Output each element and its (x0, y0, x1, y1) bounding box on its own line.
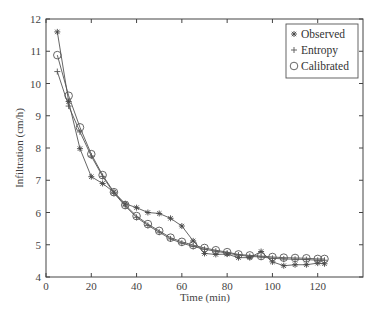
plus-marker-icon (66, 103, 72, 109)
x-tick-label: 120 (309, 280, 326, 292)
star-marker-icon (145, 210, 151, 216)
series-line (57, 55, 324, 259)
series-line (57, 32, 324, 266)
star-marker-icon (292, 262, 298, 268)
star-marker-icon (281, 263, 287, 269)
star-marker-icon (258, 249, 264, 255)
y-tick-label: 8 (36, 142, 42, 154)
plus-marker-icon (54, 69, 60, 75)
star-marker-icon (134, 205, 140, 211)
x-tick-label: 40 (131, 280, 143, 292)
series-calibrated (54, 51, 329, 262)
series-entropy (54, 69, 327, 264)
star-marker-icon (88, 174, 94, 180)
y-tick-label: 4 (36, 271, 42, 283)
legend-label-calibrated: Calibrated (301, 60, 349, 72)
y-tick-label: 11 (30, 45, 41, 57)
star-marker-icon (77, 146, 83, 152)
y-tick-label: 10 (30, 78, 42, 90)
star-marker-icon (54, 29, 60, 35)
y-tick-label: 6 (36, 207, 42, 219)
x-tick-label: 0 (43, 280, 49, 292)
legend-label-entropy: Entropy (301, 44, 338, 57)
y-tick-label: 5 (36, 239, 42, 251)
star-marker-icon (100, 180, 106, 186)
x-axis-label: Time (min) (180, 291, 230, 304)
y-tick-label: 9 (36, 110, 42, 122)
star-marker-icon (156, 210, 162, 216)
legend: ObservedEntropyCalibrated (286, 24, 358, 78)
star-marker-icon (179, 223, 185, 229)
y-axis-label: Infiltration (cm/h) (13, 108, 26, 188)
x-tick-label: 100 (264, 280, 281, 292)
chart-canvas: 020406080100120456789101112 Time (min) I… (0, 0, 380, 316)
star-legend-icon (291, 31, 297, 37)
y-tick-label: 12 (30, 13, 41, 25)
legend-label-observed: Observed (301, 28, 345, 40)
y-tick-label: 7 (36, 174, 42, 186)
x-tick-label: 20 (86, 280, 98, 292)
star-marker-icon (303, 262, 309, 268)
star-marker-icon (168, 215, 174, 221)
